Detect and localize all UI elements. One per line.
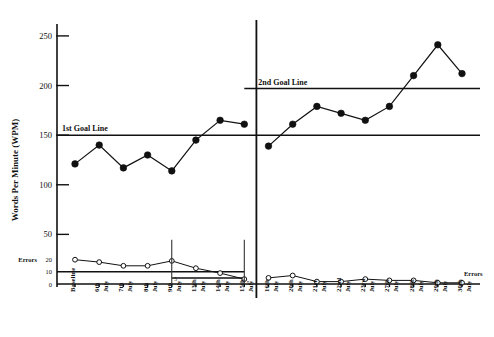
x-axis-label-16: 30th: [456, 279, 463, 292]
axes-group: [56, 24, 480, 287]
wpm-data-point: [72, 161, 79, 168]
x-axis-sublabel-5: July: [199, 280, 206, 292]
errors-data-point: [97, 260, 102, 265]
reference-line-label-1: 2nd Goal Line: [258, 78, 307, 87]
x-axis-sublabel-9: July: [296, 280, 303, 292]
y-tick-label-150: 150: [39, 130, 52, 140]
y-tick-label-100: 100: [39, 180, 52, 190]
wpm-data-point: [435, 42, 442, 49]
wpm-data-point: [362, 117, 369, 124]
wpm-errors-line-chart: 1st Goal Line2nd Goal Line Baseline6thJu…: [0, 0, 494, 337]
x-axis-sublabel-10: July: [320, 280, 327, 292]
errors-tick-label-20: 20: [46, 256, 53, 263]
wpm-data-point: [459, 70, 466, 77]
x-axis-label-1: 6th: [93, 282, 100, 292]
x-axis-sublabel-8: July: [272, 280, 279, 292]
wpm-data-point: [289, 121, 296, 128]
x-axis-label-2: 7th: [117, 282, 124, 292]
y-axis-labels-group: 5010015020025001020ErrorsErrors: [18, 31, 483, 288]
x-axis-sublabel-13: July: [392, 280, 399, 292]
y-axis-title: Words Per Minute (WPM): [10, 119, 20, 222]
errors-data-point: [290, 273, 295, 278]
wpm-data-point: [169, 168, 176, 175]
x-axis-sublabel-14: July: [417, 280, 424, 292]
x-axis-label-5: 13th: [190, 279, 197, 292]
errors-data-point: [121, 263, 126, 268]
x-axis-label-13: 27th: [383, 279, 390, 292]
y-tick-label-250: 250: [39, 31, 52, 41]
errors-data-point: [194, 266, 199, 271]
x-axis-label-14: 28th: [408, 279, 415, 292]
wpm-data-point: [96, 142, 103, 149]
wpm-series-group: [72, 42, 466, 175]
x-axis-label-12: 23rd: [359, 278, 366, 292]
x-axis-sublabel-1: July: [102, 280, 109, 292]
errors-data-point: [145, 263, 150, 268]
x-axis-label-3: 8th: [142, 282, 149, 292]
y-tick-label-50: 50: [44, 229, 53, 239]
x-axis-sublabel-11: July: [344, 280, 351, 292]
criterion-label-1: 5: [247, 280, 250, 286]
wpm-data-point: [217, 117, 224, 124]
x-axis-label-11: 22nd: [335, 277, 342, 292]
wpm-data-point: [265, 143, 272, 150]
x-axis-label-10: 21st: [311, 280, 318, 292]
errors-axis-label-right: Errors: [464, 270, 483, 277]
wpm-data-point: [120, 165, 127, 172]
criterion-label-0: 5: [174, 276, 177, 282]
wpm-data-point: [338, 110, 345, 117]
x-axis-sublabel-3: July: [151, 280, 158, 292]
reference-line-label-0: 1st Goal Line: [62, 124, 108, 133]
errors-data-point: [218, 271, 223, 276]
x-axis-label-8: 16th: [263, 279, 270, 292]
wpm-data-point: [241, 121, 248, 128]
wpm-data-point: [144, 152, 151, 159]
wpm-line-segment-2: [269, 45, 463, 146]
x-axis-label-0: Baseline: [69, 268, 76, 292]
x-axis-sublabel-2: July: [126, 280, 133, 292]
x-axis-label-9: 20th: [287, 279, 294, 292]
wpm-data-point: [314, 103, 321, 110]
errors-tick-label-0: 0: [49, 281, 52, 288]
wpm-data-point: [193, 137, 200, 144]
x-axis-label-6: 14th: [214, 279, 221, 292]
errors-tick-label-10: 10: [46, 268, 53, 275]
wpm-data-point: [386, 103, 393, 110]
reference-lines-group: 1st Goal Line2nd Goal Line: [57, 78, 480, 278]
wpm-data-point: [410, 72, 417, 79]
y-tick-label-200: 200: [39, 81, 52, 91]
errors-data-point: [73, 257, 78, 262]
annotations-group: 55: [172, 240, 250, 286]
x-axis-sublabel-12: July: [368, 280, 375, 292]
chart-container: 1st Goal Line2nd Goal Line Baseline6thJu…: [0, 0, 494, 337]
x-axis-label-15: 29th: [432, 279, 439, 292]
x-axis-sublabel-15: July: [441, 280, 448, 292]
x-axis-sublabel-16: July: [465, 280, 472, 292]
errors-axis-label-left: Errors: [18, 256, 37, 263]
x-axis-sublabel-6: July: [223, 280, 230, 292]
